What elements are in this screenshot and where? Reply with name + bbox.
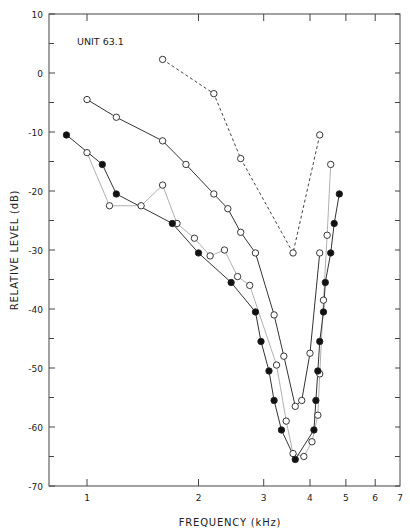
open-data-point (159, 182, 165, 188)
open-data-point (328, 161, 334, 167)
open-data-point (183, 161, 189, 167)
series-line (87, 100, 320, 407)
filled-data-point (328, 250, 334, 256)
open-data-point (207, 253, 213, 259)
x-tick-label: 5 (343, 493, 349, 503)
series-layer (63, 56, 342, 462)
y-tick-label: -50 (28, 364, 43, 374)
open-data-point (299, 397, 305, 403)
x-tick-label: 2 (196, 493, 202, 503)
open-data-point (159, 56, 165, 62)
y-tick-label: -40 (28, 305, 43, 315)
open-data-point (252, 250, 258, 256)
filled-data-point (195, 250, 201, 256)
filled-data-point (271, 397, 277, 403)
filled-data-point (317, 338, 323, 344)
open-data-point (84, 96, 90, 102)
filled-data-point (313, 397, 319, 403)
filled-data-point (336, 191, 342, 197)
filled-data-point (322, 279, 328, 285)
open-data-point (234, 273, 240, 279)
filled-data-point (315, 368, 321, 374)
open-data-point (281, 353, 287, 359)
x-axis: 1234567 (84, 14, 403, 503)
filled-data-point (331, 220, 337, 226)
open-data-point (138, 203, 144, 209)
open-data-point (271, 312, 277, 318)
open-data-point (106, 203, 112, 209)
y-tick-label: -60 (28, 423, 43, 433)
open-data-point (225, 206, 231, 212)
open-data-point (283, 418, 289, 424)
filled-data-point (113, 191, 119, 197)
y-tick-label: -10 (28, 128, 43, 138)
open-data-point (211, 90, 217, 96)
filled-data-point (258, 338, 264, 344)
open-data-point (324, 232, 330, 238)
x-tick-label: 4 (307, 493, 313, 503)
filled-data-point (292, 456, 298, 462)
open-data-point (307, 350, 313, 356)
open-data-point (237, 229, 243, 235)
x-tick-label: 7 (397, 493, 403, 503)
filled-data-point (228, 279, 234, 285)
y-tick-label: 0 (37, 69, 43, 79)
y-axis-label: RELATIVE LEVEL (dB) (9, 190, 20, 311)
filled-data-point (278, 427, 284, 433)
open-data-point (273, 362, 279, 368)
open-data-point (191, 235, 197, 241)
open-data-point (247, 282, 253, 288)
y-tick-label: -30 (28, 246, 43, 256)
open-data-point (84, 149, 90, 155)
open-data-point (221, 247, 227, 253)
open-data-point (317, 250, 323, 256)
filled-data-point (99, 161, 105, 167)
unit-annotation: UNIT 63.1 (77, 36, 124, 47)
open-data-point (317, 132, 323, 138)
filled-data-point (266, 368, 272, 374)
open-data-point (315, 412, 321, 418)
y-tick-label: 10 (32, 10, 44, 20)
x-tick-label: 6 (372, 493, 378, 503)
open-data-point (290, 450, 296, 456)
filled-data-point (169, 220, 175, 226)
x-tick-label: 1 (84, 493, 90, 503)
open-data-point (159, 138, 165, 144)
y-tick-label: -70 (28, 482, 43, 492)
x-axis-label: FREQUENCY (kHz) (179, 517, 281, 528)
open-data-point (113, 114, 119, 120)
filled-data-point (252, 309, 258, 315)
open-data-point (292, 403, 298, 409)
series-line (66, 135, 339, 460)
open-data-point (301, 453, 307, 459)
y-axis: 100-10-20-30-40-50-60-70 (28, 10, 400, 492)
open-data-point (309, 439, 315, 445)
filled-data-point (311, 427, 317, 433)
y-tick-label: -20 (28, 187, 43, 197)
frequency-response-chart: 100-10-20-30-40-50-60-70 1234567 UNIT 63… (0, 0, 410, 532)
x-tick-label: 3 (261, 493, 267, 503)
open-data-point (290, 250, 296, 256)
open-data-point (237, 155, 243, 161)
open-data-point (211, 191, 217, 197)
filled-data-point (63, 132, 69, 138)
open-data-point (320, 297, 326, 303)
filled-data-point (320, 309, 326, 315)
